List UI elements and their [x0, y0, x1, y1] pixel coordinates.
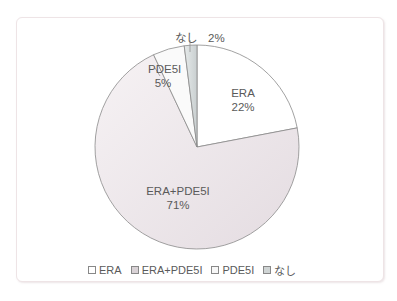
slice-label-none: なし 2%: [175, 31, 225, 45]
legend-swatch-pde5i: [211, 266, 219, 274]
legend-item-era-pde5i: ERA+PDE5I: [131, 264, 203, 276]
legend-item-none: なし: [263, 262, 296, 278]
legend-label-pde5i: PDE5I: [222, 264, 254, 276]
era-pde5i-pct: 71%: [140, 198, 216, 212]
pie-chart: [0, 0, 397, 301]
legend-swatch-era: [88, 266, 96, 274]
legend-item-era: ERA: [88, 264, 122, 276]
legend-item-pde5i: PDE5I: [211, 264, 254, 276]
legend-label-era-pde5i: ERA+PDE5I: [142, 264, 203, 276]
slice-label-era: ERA 22%: [228, 86, 258, 114]
pde5i-name: PDE5I: [148, 62, 178, 76]
slice-label-pde5i: PDE5I 5%: [148, 62, 178, 90]
pde5i-pct: 5%: [148, 76, 178, 90]
pie-slices: [95, 45, 299, 249]
legend-label-none: なし: [274, 262, 296, 278]
legend-swatch-none: [263, 266, 271, 274]
era-pde5i-name: ERA+PDE5I: [140, 184, 216, 198]
legend: ERA ERA+PDE5I PDE5I なし: [88, 262, 296, 278]
era-name: ERA: [228, 86, 258, 100]
era-pct: 22%: [228, 100, 258, 114]
slice-label-era-pde5i: ERA+PDE5I 71%: [140, 184, 216, 212]
legend-swatch-era-pde5i: [131, 266, 139, 274]
legend-label-era: ERA: [99, 264, 122, 276]
